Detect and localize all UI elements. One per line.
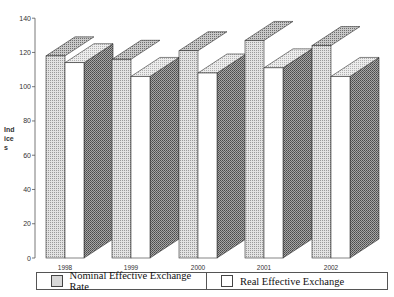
bar-group-2000	[179, 32, 246, 258]
bar-group-2002	[312, 27, 379, 258]
nominal-bar-top	[179, 32, 227, 51]
real-bar	[264, 68, 283, 258]
bar-groups	[46, 21, 379, 258]
y-tick-label: 40	[23, 186, 31, 193]
y-tick-label: 0	[27, 255, 31, 262]
bar-group-1999	[112, 40, 179, 258]
nominal-swatch-icon	[51, 275, 63, 287]
real-bar-side	[283, 49, 312, 258]
real-bar	[131, 76, 150, 258]
real-bar-side	[217, 54, 246, 258]
nominal-bar	[46, 56, 65, 258]
y-tick-label: 20	[23, 220, 31, 227]
x-tick-label: 2002	[324, 264, 339, 271]
legend-real: Real Effective Exchange	[206, 272, 388, 290]
bar-group-1998	[46, 37, 113, 258]
nominal-bar-top	[245, 21, 293, 40]
real-bar	[198, 73, 217, 258]
real-bar-side	[84, 44, 113, 258]
real-bar-side	[150, 57, 179, 258]
x-tick-label: 2001	[257, 264, 272, 271]
legend-nominal: Nominal Effective Exchange Rate	[36, 272, 208, 290]
y-tick-label: 140	[19, 15, 31, 22]
nominal-bar	[245, 40, 264, 258]
real-bar-side	[350, 57, 379, 258]
y-tick-label: 120	[19, 49, 31, 56]
legend-real-label: Real Effective Exchange	[240, 276, 344, 287]
y-axis-title: Ind ice s	[4, 125, 18, 152]
nominal-bar-top	[112, 40, 160, 59]
legend-nominal-label: Nominal Effective Exchange Rate	[70, 270, 207, 292]
y-tick-label: 100	[19, 83, 31, 90]
y-axis: 020406080100120140	[19, 15, 35, 262]
real-bar	[331, 76, 350, 258]
real-bar	[65, 63, 84, 258]
y-tick-label: 60	[23, 152, 31, 159]
bar-group-2001	[245, 21, 312, 258]
nominal-bar	[312, 46, 331, 258]
nominal-bar	[179, 51, 198, 258]
y-tick-label: 80	[23, 117, 31, 124]
real-swatch-icon	[221, 275, 233, 287]
chart-plot-area: 020406080100120140 19981999200020012002	[0, 0, 394, 297]
nominal-bar	[112, 59, 131, 258]
nominal-bar-top	[312, 27, 360, 46]
